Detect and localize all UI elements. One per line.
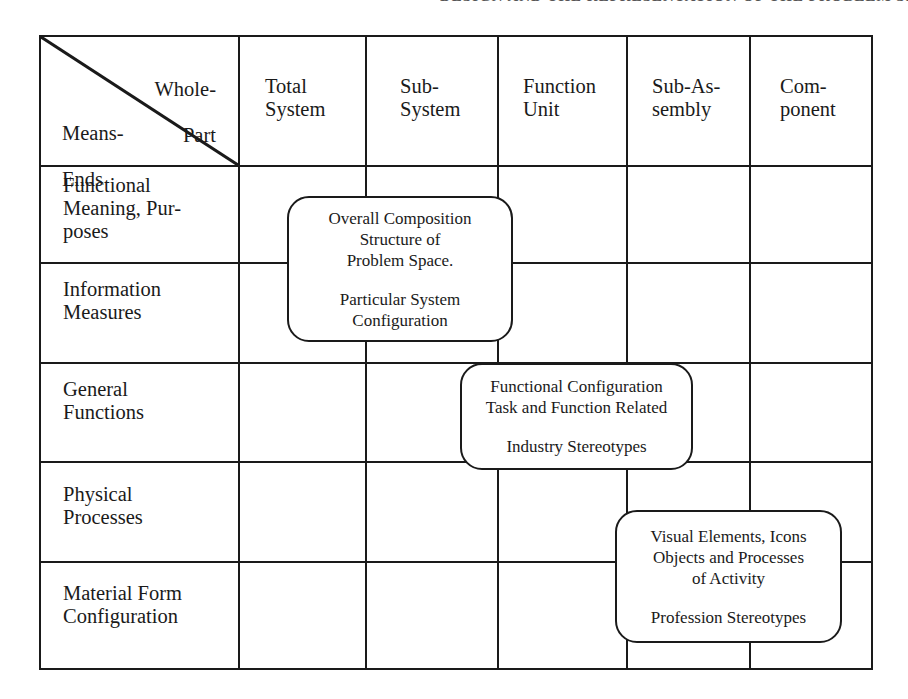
box-text-line: Functional Configuration [462,376,691,397]
part-label: Part [183,124,216,146]
whole-label: Whole- [155,78,216,100]
row-label-material-form: Material Form Configuration [63,582,182,628]
box-overall-composition: Overall Composition Structure of Problem… [287,196,513,342]
box-text-line: Objects and Processes [617,547,840,568]
row-label-information-measures: Information Measures [63,278,161,324]
box-text-line: Overall Composition [289,208,511,229]
box-text-line: Problem Space. [289,250,511,271]
box-text-line: Profession Stereotypes [617,607,840,628]
box-visual-elements: Visual Elements, Icons Objects and Proce… [615,510,842,643]
box-spacer [617,589,840,607]
row-label-physical-processes: Physical Processes [63,483,143,529]
box-spacer [462,418,691,436]
means-label: Means- [62,122,123,144]
box-text-line: Task and Function Related [462,397,691,418]
box-text-line: Structure of [289,229,511,250]
column-header-function-unit: Function Unit [523,75,596,121]
box-text-line: of Activity [617,568,840,589]
row-label-functional-meaning: Functional Meaning, Pur- poses [63,174,181,243]
corner-label-whole-part: Whole- Part [120,55,216,147]
box-text-line: Industry Stereotypes [462,436,691,457]
box-text-line: Configuration [289,310,511,331]
box-text-line: Particular System [289,289,511,310]
column-header-sub-assembly: Sub-As- sembly [652,75,720,121]
column-header-total-system: Total System [265,75,325,121]
box-functional-configuration: Functional Configuration Task and Functi… [460,363,693,470]
column-header-sub-system: Sub- System [400,75,460,121]
column-header-component: Com- ponent [780,75,836,121]
row-label-general-functions: General Functions [63,378,144,424]
box-text-line: Visual Elements, Icons [617,526,840,547]
box-spacer [289,271,511,289]
